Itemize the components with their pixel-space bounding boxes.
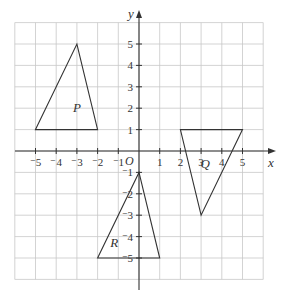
x-tick-label: 4 bbox=[219, 156, 225, 168]
triangle-label: Q bbox=[201, 156, 211, 171]
y-tick-label: 1 bbox=[128, 124, 134, 136]
x-tick-label: ⁻3 bbox=[71, 156, 83, 168]
y-tick-label: 4 bbox=[128, 59, 134, 71]
coordinate-grid-diagram: x y O ⁻5⁻4⁻3⁻2⁻11234554321⁻1⁻2⁻3⁻4⁻5 PQR bbox=[0, 0, 282, 294]
y-tick-label: 5 bbox=[128, 38, 134, 50]
x-tick-label: 1 bbox=[157, 156, 163, 168]
y-tick-label: ⁻4 bbox=[122, 231, 134, 243]
y-axis-label: y bbox=[126, 6, 134, 21]
y-tick-label: ⁻1 bbox=[122, 166, 134, 178]
y-tick-label: ⁻3 bbox=[122, 209, 134, 221]
x-axis-label: x bbox=[267, 155, 274, 170]
y-tick-label: 2 bbox=[128, 102, 134, 114]
x-tick-label: ⁻5 bbox=[30, 156, 42, 168]
x-tick-label: 2 bbox=[178, 156, 184, 168]
triangle-label: P bbox=[72, 100, 81, 115]
x-tick-label: ⁻4 bbox=[50, 156, 62, 168]
x-tick-label: 5 bbox=[240, 156, 246, 168]
x-tick-label: ⁻2 bbox=[92, 156, 104, 168]
y-tick-label: 3 bbox=[128, 81, 134, 93]
triangle-label: R bbox=[109, 235, 118, 250]
